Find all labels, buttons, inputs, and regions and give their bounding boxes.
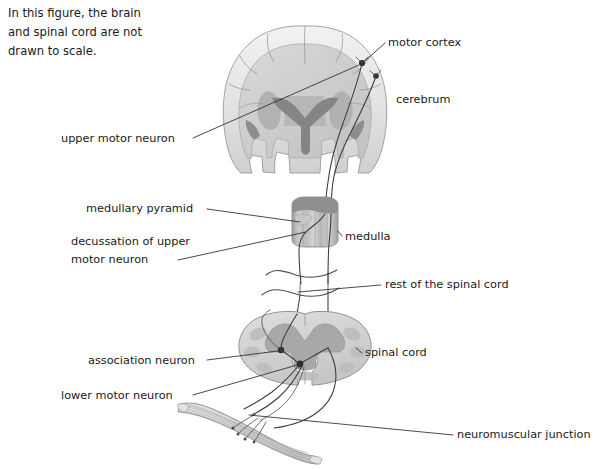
label-upper-motor-neuron: upper motor neuron xyxy=(61,132,175,145)
label-medullary-pyramid: medullary pyramid xyxy=(86,202,193,215)
scale-note-line-1: In this figure, the brain xyxy=(8,6,141,20)
leader-decussation xyxy=(178,232,306,260)
break-line-upper xyxy=(266,270,337,277)
label-medulla: medulla xyxy=(345,230,391,243)
label-motor-cortex: motor cortex xyxy=(388,36,461,49)
label-lower-motor-neuron: lower motor neuron xyxy=(61,389,173,402)
motor-pathway-figure: In this figure, the brain and spinal cor… xyxy=(0,0,599,469)
leader-medulla xyxy=(338,231,342,236)
figure-canvas: In this figure, the brain and spinal cor… xyxy=(0,0,599,469)
label-spinal-cord: spinal cord xyxy=(365,346,427,359)
spinal-cord-section xyxy=(239,311,371,385)
label-association-neuron: association neuron xyxy=(88,354,195,367)
skeletal-muscle xyxy=(178,403,322,464)
scale-note: In this figure, the brain and spinal cor… xyxy=(8,6,142,58)
label-cerebrum: cerebrum xyxy=(396,93,451,106)
nmj-endplate-4 xyxy=(253,441,256,444)
descending-axon-left xyxy=(297,295,300,314)
label-decussation-line-1: decussation of upper xyxy=(71,235,190,248)
leader-neuromuscular-junction xyxy=(249,415,453,435)
label-rest-of-spinal-cord: rest of the spinal cord xyxy=(385,278,509,291)
scale-note-line-3: drawn to scale. xyxy=(8,44,97,58)
nmj-endplate-3 xyxy=(244,438,247,441)
label-decussation-line-2: motor neuron xyxy=(71,253,148,266)
muscle-belly xyxy=(178,403,320,464)
scale-note-line-2: and spinal cord are not xyxy=(8,25,142,39)
leader-rest-of-spinal-cord xyxy=(298,285,381,292)
cerebrum-section xyxy=(223,26,386,173)
nmj-endplate-1 xyxy=(231,426,234,429)
nmj-endplate-2 xyxy=(237,433,240,436)
label-neuromuscular-junction: neuromuscular junction xyxy=(457,428,591,441)
leader-medullary-pyramid xyxy=(207,209,300,222)
